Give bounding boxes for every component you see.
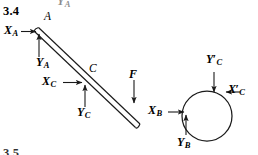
force-label-XC: XC bbox=[42, 75, 56, 89]
next-problem-number: 3.5 bbox=[3, 147, 19, 155]
force-label-YA: YA bbox=[36, 56, 49, 70]
force-label-XA: XA bbox=[4, 24, 18, 38]
force-label-YB: YB bbox=[177, 136, 190, 150]
force-label-YCprime: Y′C bbox=[206, 53, 222, 67]
disc-body bbox=[182, 91, 232, 141]
problem-number: 3.4 bbox=[3, 5, 19, 18]
point-label-c: C bbox=[89, 63, 97, 75]
force-label-XCprime: X′C bbox=[228, 83, 245, 97]
figure-canvas: YA 3.4 3.5 A C XA YA XC YC F XB YB Y′C X… bbox=[0, 0, 258, 155]
force-label-YC: YC bbox=[77, 106, 90, 120]
point-label-a: A bbox=[44, 11, 51, 23]
clipped-top-label: YA bbox=[57, 0, 70, 9]
force-label-F: F bbox=[129, 68, 137, 80]
force-label-XB: XB bbox=[148, 104, 162, 118]
